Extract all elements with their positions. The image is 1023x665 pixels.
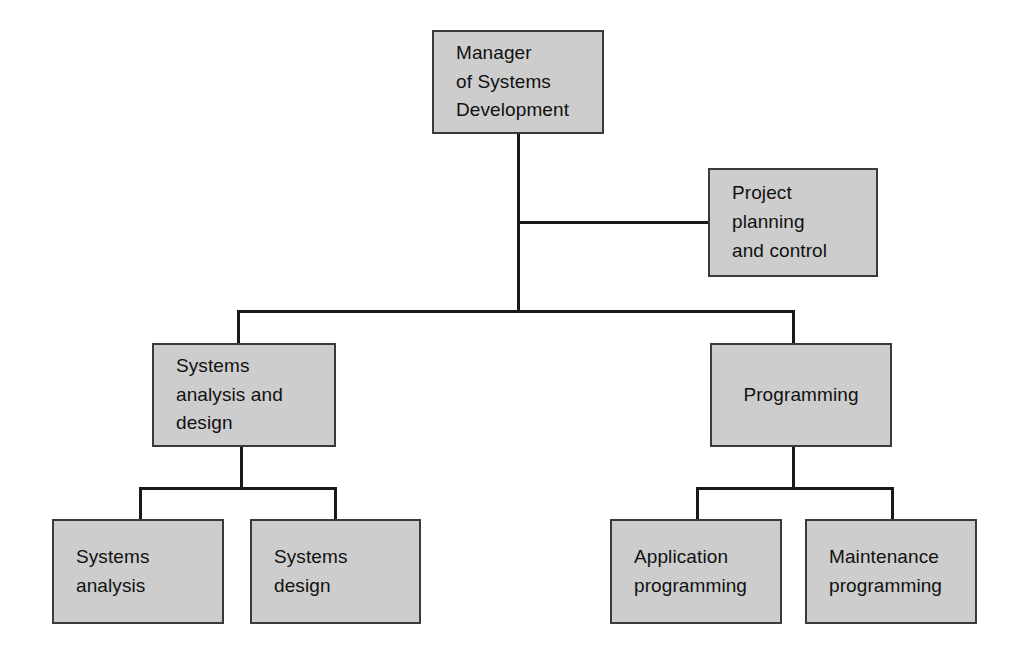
node-label: Systems design [252,543,356,601]
node-label: Application programming [612,543,755,601]
node-systems-design[interactable]: Systems design [250,519,421,624]
node-manager-of-systems-development[interactable]: Manager of Systems Development [432,30,604,134]
connector-left-sub-bus [139,487,337,490]
org-chart-canvas: Manager of Systems Development Project p… [0,0,1023,665]
connector-sub-bus-to-application-programming [696,487,699,521]
connector-sub-bus-to-systems-analysis [139,487,142,521]
connector-programming-trunk [792,447,795,489]
connector-sub-bus-to-maintenance-programming [891,487,894,521]
node-label: Project planning and control [710,179,835,266]
connector-right-sub-bus [696,487,894,490]
node-label: Systems analysis and design [154,352,291,439]
node-label: Maintenance programming [807,543,950,601]
node-maintenance-programming[interactable]: Maintenance programming [805,519,977,624]
connector-bus-to-systems-analysis-design [237,310,240,345]
node-programming[interactable]: Programming [710,343,892,447]
node-label: Programming [735,381,866,410]
node-label: Systems analysis [54,543,158,601]
connector-manager-to-project-planning [517,221,709,224]
node-project-planning-and-control[interactable]: Project planning and control [708,168,878,277]
connector-main-bus [237,310,795,313]
node-label: Manager of Systems Development [434,39,577,126]
connector-systems-analysis-design-trunk [240,447,243,489]
node-systems-analysis[interactable]: Systems analysis [52,519,224,624]
node-application-programming[interactable]: Application programming [610,519,782,624]
connector-sub-bus-to-systems-design [334,487,337,521]
node-systems-analysis-and-design[interactable]: Systems analysis and design [152,343,336,447]
connector-bus-to-programming [792,310,795,345]
